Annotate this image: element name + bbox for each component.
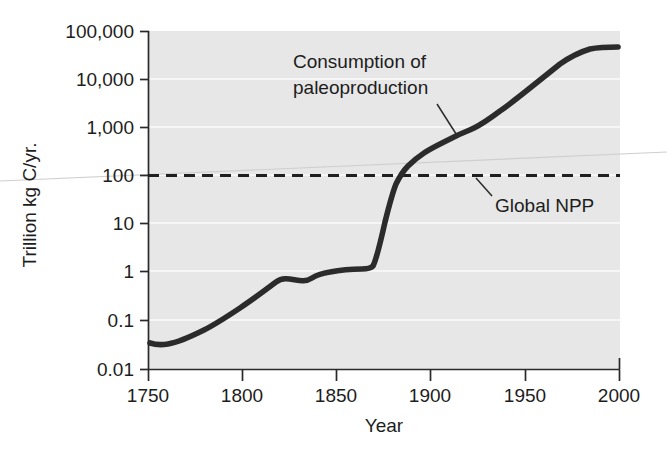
y-tick-label-0.01: 0.01	[97, 359, 134, 380]
y-axis-title: Trillion kg C/yr.	[19, 143, 40, 268]
y-tick-label-100000: 100,000	[65, 21, 134, 42]
chart-figure: 100,000 10,000 1,000 100 10 1 0.1 0.01 1…	[0, 0, 667, 451]
y-tick-label-10000: 10,000	[76, 69, 134, 90]
x-tick-label-1750: 1750	[127, 385, 169, 406]
y-tick-label-0.1: 0.1	[108, 310, 134, 331]
x-tick-label-1850: 1850	[315, 385, 357, 406]
log-line-chart: 100,000 10,000 1,000 100 10 1 0.1 0.01 1…	[0, 0, 667, 451]
y-tick-label-100: 100	[102, 165, 134, 186]
y-tick-label-10: 10	[113, 213, 134, 234]
annotation-consumption-line1: Consumption of	[293, 51, 427, 72]
x-axis-title: Year	[365, 415, 404, 436]
y-tick-label-1000: 1,000	[86, 117, 134, 138]
x-tick-label-1950: 1950	[504, 385, 546, 406]
x-tickmarks	[149, 370, 620, 381]
annotation-consumption-line2: paleoproduction	[293, 77, 428, 98]
x-tick-label-1900: 1900	[409, 385, 451, 406]
x-tick-label-2000: 2000	[598, 385, 640, 406]
y-tick-label-1: 1	[123, 261, 134, 282]
x-tick-label-1800: 1800	[221, 385, 263, 406]
annotation-global-npp-label: Global NPP	[495, 195, 594, 216]
